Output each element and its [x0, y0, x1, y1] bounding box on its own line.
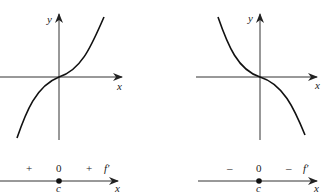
right-c-label: c: [256, 182, 261, 193]
left-sign-at-c: 0: [56, 162, 62, 174]
right-sign-at-c: 0: [256, 162, 262, 174]
left-c-label: c: [56, 182, 61, 193]
left-sign-chart: + 0 + f′ c x: [0, 162, 120, 193]
left-sign-before: +: [26, 162, 32, 174]
right-curve-decreasing: [218, 17, 305, 135]
left-number-line-x-label: x: [114, 182, 120, 193]
left-x-label: x: [116, 80, 122, 92]
left-graph: y x: [0, 13, 122, 140]
right-y-label: y: [247, 12, 253, 24]
right-fprime-label: f′: [303, 162, 309, 174]
right-graph: y x: [196, 12, 320, 140]
right-x-label: x: [314, 79, 320, 91]
left-fprime-label: f′: [104, 162, 110, 174]
right-sign-before: –: [226, 162, 233, 174]
right-number-line-x-label: x: [313, 182, 319, 193]
diagram-canvas: y x y x + 0 + f′ c x – 0 – f′ c x: [0, 0, 321, 193]
right-sign-after: –: [285, 162, 292, 174]
left-y-label: y: [46, 13, 52, 25]
right-sign-chart: – 0 – f′ c x: [198, 162, 319, 193]
left-sign-after: +: [86, 162, 92, 174]
